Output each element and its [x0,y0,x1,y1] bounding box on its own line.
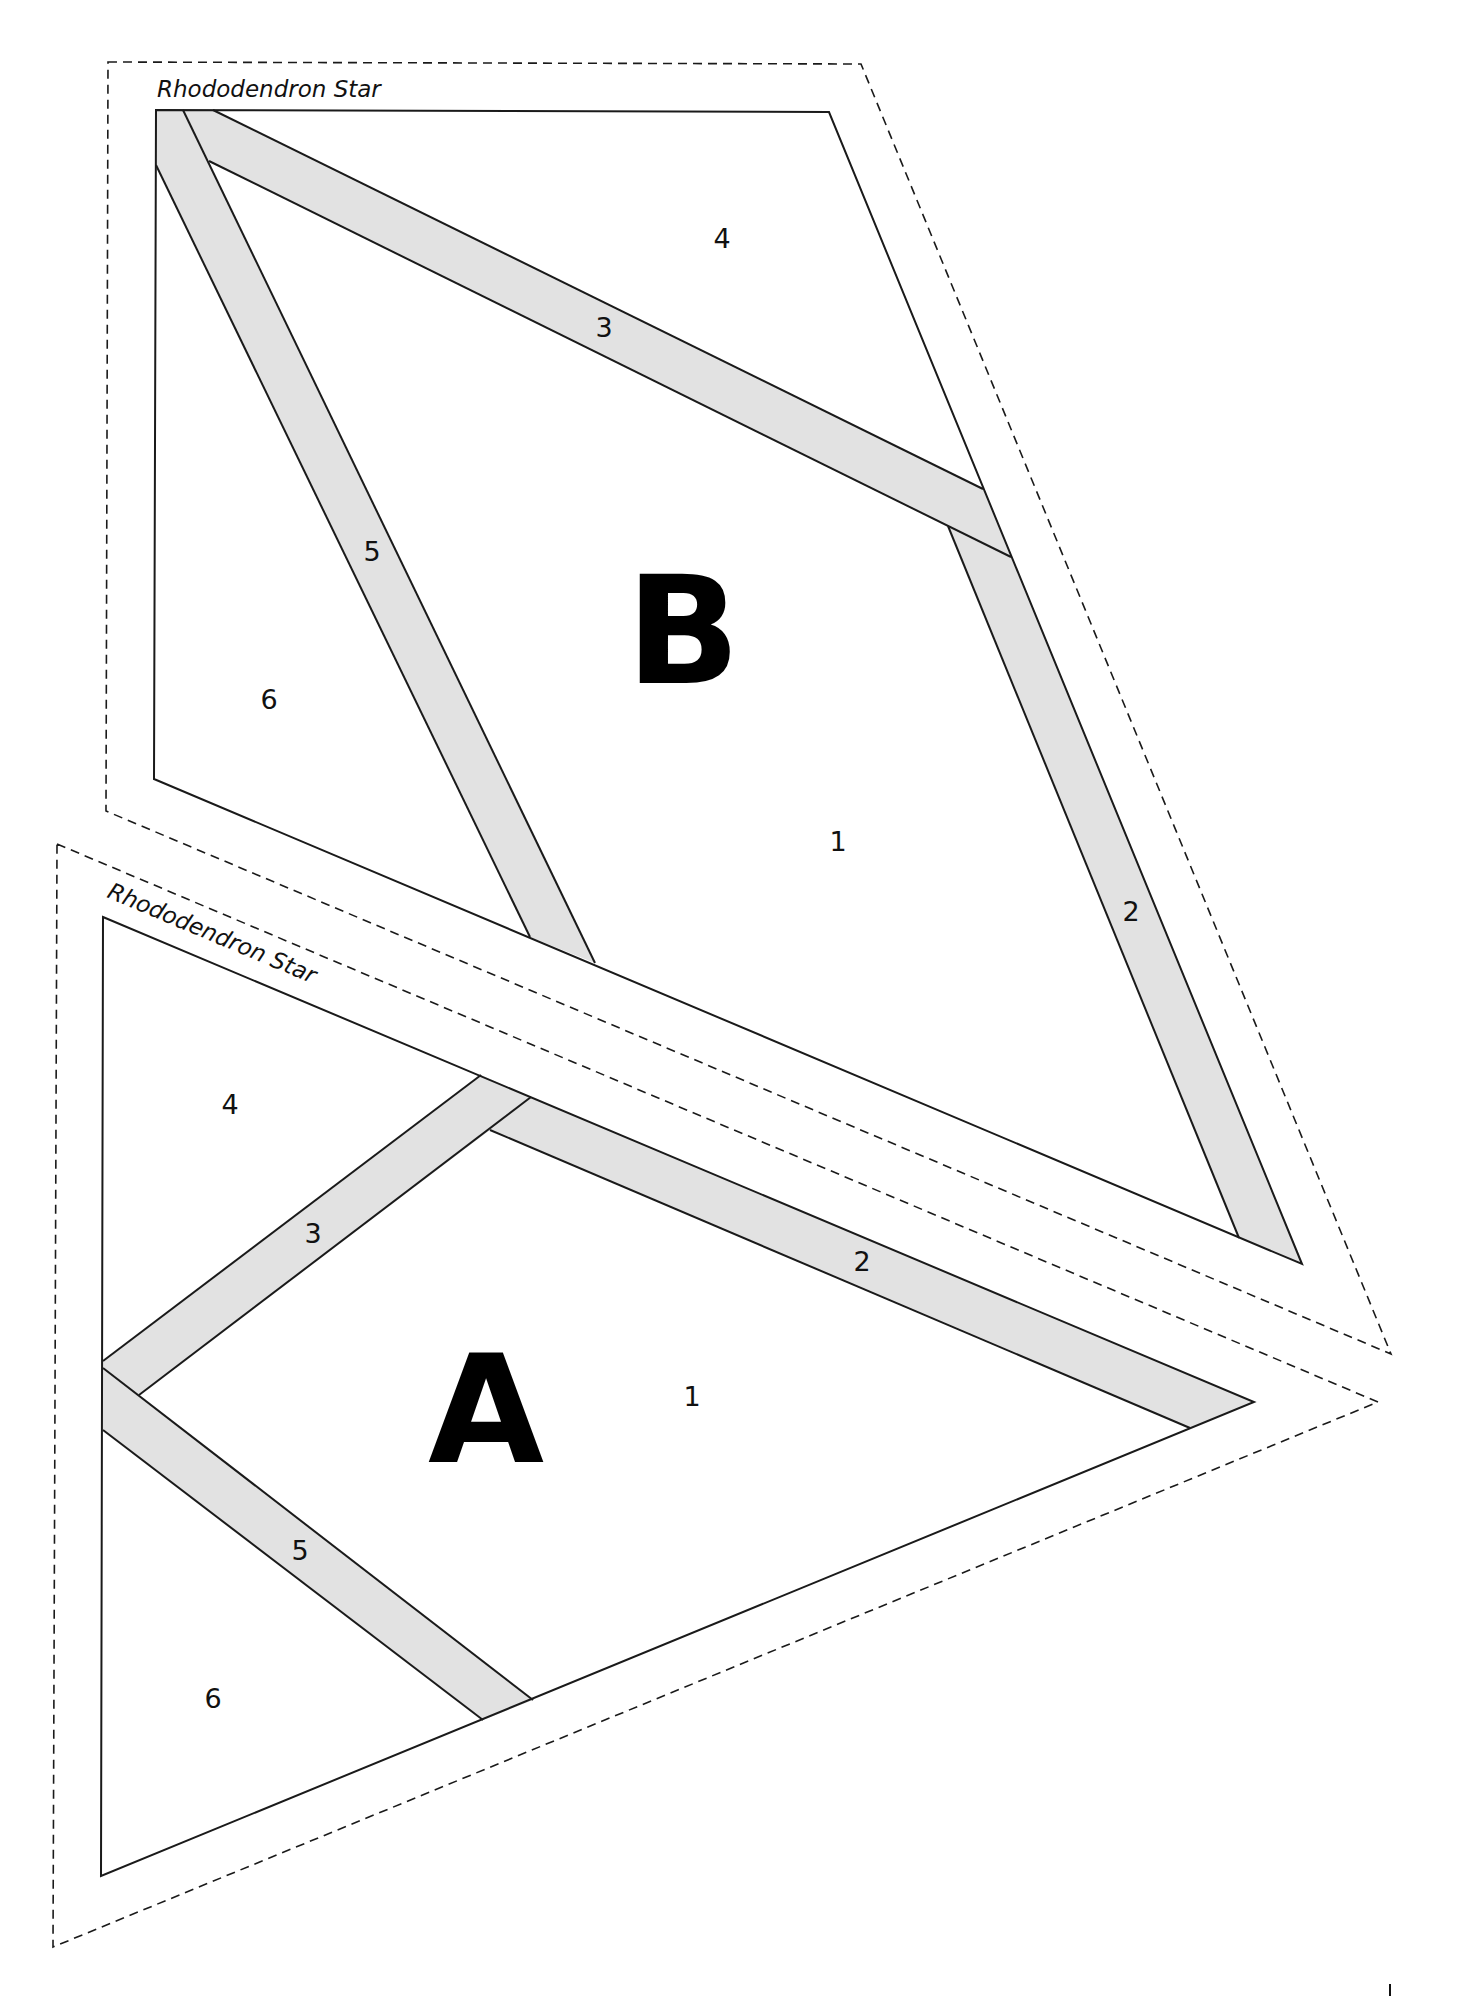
piece-b-label-1: 1 [829,826,846,857]
piece-a-outline [101,917,1254,1876]
piece-b-label-2: 2 [1122,896,1139,927]
piece-a-label-4: 4 [221,1089,238,1120]
piece-b-section-2-band [948,526,1302,1264]
piece-a-title: Rhododendron Star [104,878,322,989]
piece-a-label-3: 3 [304,1218,321,1249]
piece-b-seam-allowance [106,62,1391,1354]
piece-b: Rhododendron Star B 1 2 3 4 5 6 [106,62,1391,1354]
piece-b-label-3: 3 [595,312,612,343]
piece-a-letter: A [428,1323,544,1497]
piece-a-label-2: 2 [853,1246,870,1277]
piece-b-label-6: 6 [260,684,277,715]
piece-b-label-4: 4 [713,223,730,254]
piece-a-label-6: 6 [204,1683,221,1714]
piece-b-label-5: 5 [363,536,380,567]
piece-b-letter: B [626,544,740,718]
piece-a-section-2-band [490,1097,1254,1428]
piece-a-label-1: 1 [683,1381,700,1412]
piece-b-title: Rhododendron Star [157,76,382,102]
piece-a-label-5: 5 [291,1535,308,1566]
pattern-canvas: Rhododendron Star B 1 2 3 4 5 6 Rhododen… [0,0,1470,1996]
